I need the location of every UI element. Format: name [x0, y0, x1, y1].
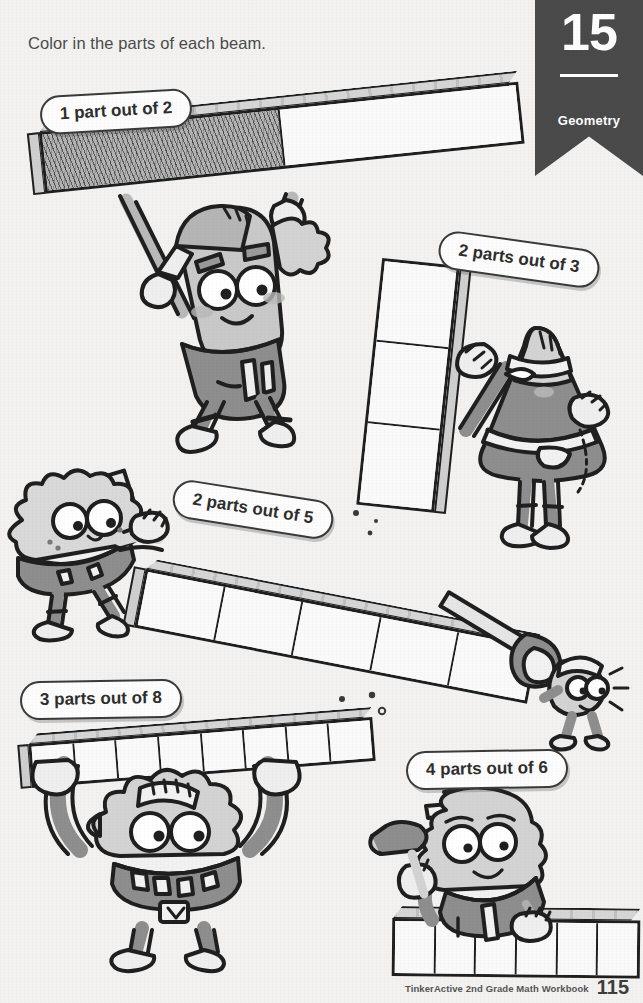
beam-segment[interactable] — [360, 423, 440, 509]
beam-segment[interactable] — [598, 923, 637, 975]
chapter-number: 15 — [535, 0, 643, 58]
instruction-text: Color in the parts of each beam. — [28, 34, 266, 53]
chapter-topic-label: Geometry — [535, 113, 643, 128]
problem-5-label: 4 parts out of 6 — [406, 749, 569, 791]
character-fuzzy-sawyer — [0, 476, 176, 636]
workbook-title: TinkerActive 2nd Grade Math Workbook — [405, 983, 589, 997]
beam-segment[interactable] — [216, 587, 304, 655]
page-footer: TinkerActive 2nd Grade Math Workbook 115 — [405, 977, 629, 997]
character-fuzzy-lifter — [28, 760, 328, 960]
beam-segment[interactable] — [368, 342, 448, 430]
chapter-banner: 15 Geometry — [535, 0, 643, 176]
problem-3-label: 2 parts out of 5 — [170, 478, 336, 542]
beam-problem-2 — [356, 258, 459, 513]
sawdust-specks — [330, 505, 420, 735]
character-triangle-with-headband — [448, 318, 628, 548]
character-fuzzy-hammerer — [370, 788, 580, 948]
beam-segment[interactable] — [376, 261, 456, 349]
character-saw-helper — [498, 618, 618, 748]
problem-4-label: 3 parts out of 8 — [20, 679, 183, 721]
beam-segment[interactable] — [286, 723, 331, 764]
page-number: 115 — [597, 977, 629, 997]
workbook-page: 15 Geometry Color in the parts of each b… — [0, 0, 643, 1003]
banner-divider — [560, 74, 618, 77]
character-builder-with-cap — [96, 186, 346, 436]
